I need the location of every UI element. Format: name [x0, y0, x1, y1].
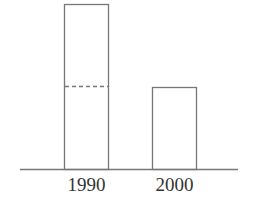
bar-2000	[153, 88, 197, 170]
x-tick-label-2000: 2000	[156, 174, 194, 195]
bar-chart: 1990 2000	[0, 0, 254, 205]
x-tick-label-1990: 1990	[68, 174, 106, 195]
